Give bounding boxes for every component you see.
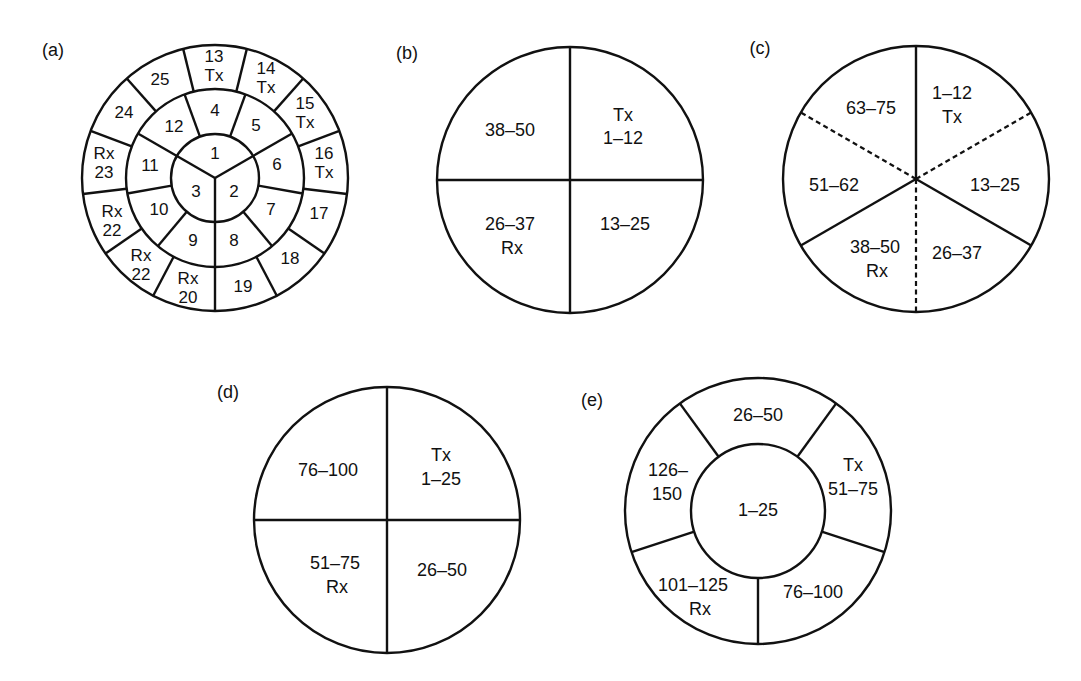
sector-d-lower-left-line1: 51–75 [310, 553, 360, 573]
diagram-d: (d) 76–100 Tx 1–25 51–75 Rx 26–50 [217, 382, 520, 653]
cell-23-num: 23 [95, 163, 114, 182]
panel-label-a: (a) [42, 40, 64, 60]
cell-23-role: Rx [94, 144, 115, 163]
cell-15-num: 15 [296, 94, 315, 113]
cell-4: 4 [210, 101, 219, 120]
cell-18: 18 [281, 249, 300, 268]
sector-c-5: 51–62 [809, 175, 859, 195]
sector-e-right-line2: 51–75 [828, 479, 878, 499]
cell-16-num: 16 [315, 144, 334, 163]
cell-11: 11 [141, 156, 159, 175]
sector-b-upper-right-line1: Tx [613, 105, 633, 125]
sector-d-upper-right-line1: Tx [431, 445, 451, 465]
cell-15-role: Tx [296, 113, 315, 132]
diagram-b: (b) 38–50 Tx 1–12 26–37 Rx 13–25 [396, 43, 703, 313]
cell-19: 19 [234, 277, 253, 296]
cell-14-role: Tx [257, 78, 276, 97]
sector-e-center: 1–25 [738, 500, 778, 520]
sector-c-4-line2: Rx [866, 261, 888, 281]
cell-13-num: 13 [205, 47, 224, 66]
diagram-e: (e) 1–25 26–50 Tx 51–75 76–100 101–125 R… [581, 378, 891, 644]
sector-e-left-line2: 150 [652, 484, 682, 504]
cell-22-num: 22 [103, 221, 122, 240]
cell-1: 1 [210, 144, 219, 163]
sector-c-4-line1: 38–50 [850, 237, 900, 257]
cell-12: 12 [165, 117, 184, 136]
sector-c-1-line2: Tx [942, 107, 962, 127]
sector-e-lower-right: 76–100 [783, 582, 843, 602]
cell-20-num: 20 [179, 288, 198, 307]
sector-b-lower-left-line2: Rx [501, 238, 523, 258]
sector-e-lower-left-line1: 101–125 [658, 575, 728, 595]
cell-10: 10 [150, 200, 169, 219]
sector-e-lower-left-line2: Rx [689, 599, 711, 619]
panel-label-e: (e) [581, 390, 603, 410]
sector-c-6: 63–75 [846, 98, 896, 118]
panel-label-d: (d) [217, 382, 239, 402]
sector-d-lower-right: 26–50 [417, 560, 467, 580]
sector-c-3: 26–37 [932, 243, 982, 263]
cell-25: 25 [151, 70, 170, 89]
cell-6: 6 [272, 155, 281, 174]
cell-16-role: Tx [315, 163, 334, 182]
cell-partition-figure: (a) 1 2 3 4 5 6 7 8 9 10 11 12 13 Tx 14 … [0, 0, 1081, 681]
sector-e-top: 26–50 [733, 405, 783, 425]
sector-d-upper-left: 76–100 [298, 460, 358, 480]
sector-d-upper-right-line2: 1–25 [421, 469, 461, 489]
sector-b-lower-right: 13–25 [600, 214, 650, 234]
sector-c-1-line1: 1–12 [932, 83, 972, 103]
cell-9: 9 [188, 231, 197, 250]
cell-5: 5 [251, 116, 260, 135]
sector-c-2: 13–25 [970, 175, 1020, 195]
cell-3: 3 [191, 182, 200, 201]
cell-21-role: Rx [131, 246, 152, 265]
sector-b-upper-left: 38–50 [485, 120, 535, 140]
cell-21-num: 22 [132, 265, 151, 284]
panel-label-c: (c) [750, 38, 771, 58]
sector-d-lower-left-line2: Rx [326, 577, 348, 597]
cell-13-role: Tx [205, 66, 224, 85]
diagram-a: (a) 1 2 3 4 5 6 7 8 9 10 11 12 13 Tx 14 … [42, 40, 348, 311]
cell-17: 17 [310, 204, 329, 223]
cell-24: 24 [115, 103, 134, 122]
panel-label-b: (b) [396, 43, 418, 63]
cell-2: 2 [229, 182, 238, 201]
cell-7: 7 [266, 200, 275, 219]
cell-14-num: 14 [257, 59, 276, 78]
sector-e-right-line1: Tx [843, 455, 863, 475]
sector-b-upper-right-line2: 1–12 [603, 128, 643, 148]
cell-8: 8 [229, 231, 238, 250]
cell-22-role: Rx [102, 202, 123, 221]
cell-20-role: Rx [178, 269, 199, 288]
sector-b-lower-left-line1: 26–37 [485, 214, 535, 234]
sector-e-left-line1: 126– [648, 460, 688, 480]
diagram-c: (c) 1–12 Tx 13–25 26–37 38–50 Rx 51–62 6… [750, 38, 1050, 312]
